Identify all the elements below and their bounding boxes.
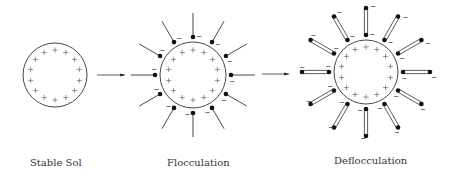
charge-dot-icon <box>332 14 337 19</box>
negative-charge-icon: − <box>395 128 400 137</box>
adsorbed-molecule: −− <box>306 82 336 106</box>
negative-charge-icon: − <box>340 98 345 107</box>
adsorbed-molecule: − <box>131 65 157 77</box>
adsorbed-molecule: − <box>162 102 176 129</box>
negative-charge-icon: − <box>222 96 227 105</box>
negative-charge-icon: − <box>177 34 182 43</box>
charge-dot-icon <box>382 38 387 43</box>
negative-charge-icon: − <box>152 65 157 74</box>
positive-charge-icon <box>52 47 57 52</box>
adsorbed-molecule: −− <box>329 98 350 132</box>
positive-charge-icon <box>171 88 176 93</box>
negative-charge-icon: − <box>370 30 375 39</box>
charge-dot-icon <box>345 102 350 107</box>
negative-charge-icon: − <box>337 8 342 17</box>
positive-charge-icon <box>63 50 68 55</box>
positive-charge-icon <box>52 97 57 102</box>
stable-sol-label: Stable Sol <box>30 157 82 168</box>
positive-charge-icon <box>374 92 379 97</box>
positive-charge-icon <box>190 47 195 52</box>
charge-dot-icon <box>345 38 350 43</box>
adsorbed-molecule: −− <box>300 62 332 74</box>
negative-charge-icon: − <box>230 77 235 86</box>
positive-charge-icon <box>166 67 171 72</box>
positive-charge-icon <box>383 85 388 90</box>
charge-dot-icon <box>210 40 215 45</box>
positive-charge-icon <box>339 64 344 69</box>
positive-charge-icon <box>363 44 368 49</box>
positive-charge-icon <box>383 54 388 59</box>
negative-charge-icon: − <box>350 32 355 41</box>
positive-charge-icon <box>42 95 47 100</box>
adsorbed-molecule: −− <box>401 70 437 83</box>
adsorbed-molecule: − <box>205 106 224 129</box>
charge-dot-icon <box>419 38 424 43</box>
negative-charge-icon: − <box>371 2 376 11</box>
negative-charge-icon: − <box>426 39 431 48</box>
adsorbed-molecule: − <box>185 110 195 137</box>
flocculation-particle: −−−−−−−−−−−− <box>131 13 255 137</box>
positive-charge-icon <box>42 50 47 55</box>
adsorbed-molecule: −− <box>364 2 376 39</box>
positive-charge-icon <box>171 57 176 62</box>
positive-charge-icon <box>344 54 349 59</box>
charge-dot-icon <box>364 33 369 38</box>
negative-charge-icon: − <box>358 106 363 115</box>
negative-charge-icon: − <box>378 104 383 113</box>
positive-charge-icon <box>353 47 358 52</box>
positive-charge-icon <box>190 97 195 102</box>
negative-charge-icon: − <box>160 46 165 55</box>
positive-charge-icon <box>72 88 77 93</box>
negative-charge-icon: − <box>216 40 221 49</box>
adsorbed-molecule: − <box>224 44 247 66</box>
positive-charge-icon <box>363 94 368 99</box>
charge-dot-icon <box>364 6 369 11</box>
positive-charge-icon <box>210 57 215 62</box>
negative-charge-icon: − <box>402 74 407 83</box>
adsorbed-molecule: −− <box>358 106 368 143</box>
negative-charge-icon: − <box>421 105 426 114</box>
positive-charge-icon <box>166 78 171 83</box>
adsorbed-molecule: − <box>222 92 247 106</box>
positive-charge-icon <box>72 57 77 62</box>
positive-charge-icon <box>33 88 38 93</box>
adsorbed-molecule: −− <box>308 31 339 56</box>
adsorbed-molecule: − <box>162 21 182 44</box>
adsorbed-molecule: − <box>210 21 224 49</box>
positive-charge-icon <box>215 78 220 83</box>
positive-charge-icon <box>180 95 185 100</box>
positive-charge-icon <box>201 50 206 55</box>
charge-dot-icon <box>172 106 177 111</box>
charge-dot-icon <box>396 14 401 19</box>
positive-charge-icon <box>201 95 206 100</box>
positive-charge-icon <box>28 67 33 72</box>
charge-dot-icon <box>364 107 369 112</box>
process-arrows <box>97 74 289 75</box>
flocculation-label: Flocculation <box>167 157 230 168</box>
negative-charge-icon: − <box>228 57 233 66</box>
adsorbed-molecule: −− <box>396 38 431 63</box>
panel-labels: Stable Sol Flocculation Deflocculation <box>30 155 408 168</box>
positive-charge-icon <box>339 75 344 80</box>
negative-charge-icon: − <box>326 62 331 71</box>
deflocculation-particle: −−−−−−−−−−−−−−−−−−−−−−−− <box>300 2 437 143</box>
negative-charge-icon: − <box>205 108 210 117</box>
negative-charge-icon: − <box>300 63 305 72</box>
positive-charge-icon <box>388 64 393 69</box>
diagram-panels: −−−−−−−−−−−−−−−−−−−−−−−−−−−−−−−−−−−− <box>23 2 437 143</box>
positive-charge-icon <box>77 78 82 83</box>
positive-charge-icon <box>28 78 33 83</box>
negative-charge-icon: − <box>334 44 339 53</box>
negative-charge-icon: − <box>361 134 366 143</box>
positive-charge-icon <box>77 67 82 72</box>
adsorbed-molecule: −− <box>382 13 408 47</box>
negative-charge-icon: − <box>311 31 316 40</box>
positive-charge-icon <box>210 88 215 93</box>
positive-charge-icon <box>215 67 220 72</box>
negative-charge-icon: − <box>329 123 334 132</box>
positive-charge-icon <box>63 95 68 100</box>
negative-charge-icon: − <box>400 54 405 63</box>
positive-charge-icon <box>180 50 185 55</box>
negative-charge-icon: − <box>154 85 159 94</box>
positive-charge-icon <box>388 75 393 80</box>
